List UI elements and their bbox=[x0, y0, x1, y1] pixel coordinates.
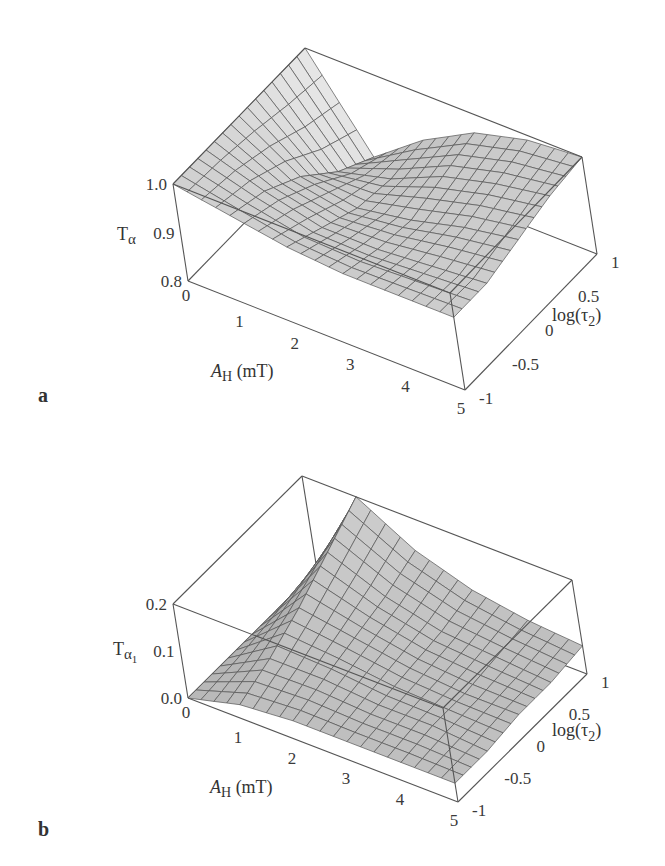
x-tick-label: 1 bbox=[235, 312, 244, 331]
z-tick-label: 0.2 bbox=[146, 595, 167, 614]
z-tick-label: 0.0 bbox=[161, 689, 182, 708]
z-axis-label: Tα bbox=[117, 224, 136, 247]
z-axis-label: Tα1 bbox=[113, 639, 137, 665]
x-tick-label: 2 bbox=[288, 749, 297, 768]
box-edge bbox=[173, 476, 302, 604]
x-axis-label: AH (mT) bbox=[210, 361, 274, 384]
y-tick-label: -0.5 bbox=[512, 355, 539, 374]
y-tick-label: 1 bbox=[611, 253, 620, 272]
box-edge bbox=[572, 580, 587, 674]
x-tick-label: 0 bbox=[182, 286, 191, 305]
x-axis-label: AH (mT) bbox=[209, 777, 273, 800]
box-edge bbox=[173, 184, 188, 281]
y-tick-label: -1 bbox=[472, 801, 486, 820]
box-edge bbox=[582, 157, 597, 254]
y-axis-label: log(τ2) bbox=[552, 720, 601, 744]
y-tick-label: -0.5 bbox=[504, 769, 531, 788]
x-tick-label: 1 bbox=[234, 728, 243, 747]
panel-label-a: a bbox=[38, 384, 48, 406]
x-tick-label: 4 bbox=[401, 377, 410, 396]
z-tick-label: 0.1 bbox=[153, 642, 174, 661]
figure: 0.80.91.0012345-1-0.500.51 Tα AH (mT) lo… bbox=[0, 0, 665, 866]
box-edge bbox=[173, 604, 188, 698]
x-tick-label: 5 bbox=[457, 399, 466, 418]
y-tick-label: 0 bbox=[537, 737, 546, 756]
y-tick-label: 0.5 bbox=[578, 287, 599, 306]
surface-plot-b: 0.00.10.2012345-1-0.500.51 Tα1 AH (mT) l… bbox=[38, 476, 610, 840]
y-tick-label: 1 bbox=[601, 673, 610, 692]
x-tick-label: 3 bbox=[346, 355, 355, 374]
y-tick-label: -1 bbox=[479, 389, 493, 408]
box-edge bbox=[302, 476, 317, 570]
z-tick-label: 0.9 bbox=[153, 224, 174, 243]
x-tick-label: 2 bbox=[291, 334, 300, 353]
x-tick-label: 3 bbox=[342, 769, 351, 788]
surface-mesh bbox=[188, 497, 583, 783]
z-tick-label: 1.0 bbox=[146, 175, 167, 194]
x-tick-label: 0 bbox=[182, 703, 191, 722]
x-tick-label: 4 bbox=[396, 790, 405, 809]
z-tick-label: 0.8 bbox=[161, 272, 182, 291]
x-tick-label: 5 bbox=[450, 811, 459, 830]
surface-mesh bbox=[173, 48, 582, 317]
surface-plot-a: 0.80.91.0012345-1-0.500.51 Tα AH (mT) lo… bbox=[38, 48, 620, 418]
panel-label-b: b bbox=[38, 818, 49, 840]
y-axis-label: log(τ2) bbox=[552, 305, 601, 329]
